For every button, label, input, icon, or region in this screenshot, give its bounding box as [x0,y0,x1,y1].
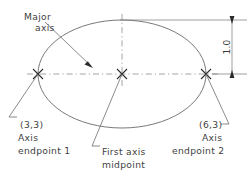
endpoint-2-label-line2: endpoint 2 [172,145,225,156]
dimension-value-label: 1.0 [222,39,232,54]
technical-drawing: 1.0 Major axis (3,3) Axis endpoint 1 ( [0,0,249,176]
endpoint-1-coordinate: (3,3) [20,119,43,130]
major-axis-label-line2: axis [35,22,55,33]
drawing-canvas: 1.0 Major axis (3,3) Axis endpoint 1 ( [0,0,249,176]
endpoint-2-label-line1: Axis [202,132,222,143]
endpoint-1-label-line2: endpoint 1 [18,145,71,156]
midpoint-label-line2: midpoint [102,159,145,170]
endpoint-1-label-line1: Axis [18,132,38,143]
midpoint-label-line1: First axis [102,146,146,157]
leader-line-icon-midpoint [92,74,122,146]
endpoint-2-coordinate: (6,3) [199,119,222,130]
leader-line-icon-endpoint-1 [9,74,38,117]
major-axis-label-line1: Major [24,11,51,22]
leader-line-icon-endpoint-2 [206,74,229,124]
